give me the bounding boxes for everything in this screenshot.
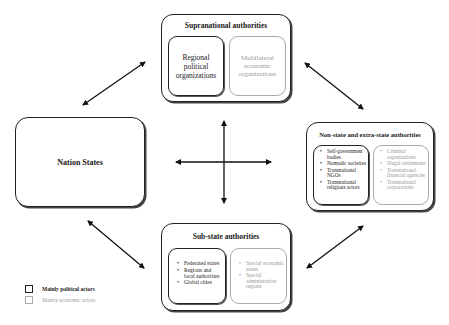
non-state-authorities-box: Non-state and extra-state authorities Se… — [306, 122, 434, 211]
list-item: Transnational financial agencies — [387, 168, 426, 179]
arrow-nation-to-substate — [88, 221, 144, 268]
nation-states-title: Nation States — [57, 158, 103, 167]
sub-state-economic-list: Special economic zones Special administr… — [237, 261, 284, 290]
arrow-substate-to-nonstate — [307, 226, 363, 268]
legend-political-label: Mainly political actors — [42, 286, 95, 292]
list-item: Transnational religious actors — [327, 180, 366, 191]
multilateral-economic-organizations-label: Multilateral economic organizations — [230, 54, 285, 78]
list-item: Criminal organizations — [387, 149, 426, 160]
non-state-political-box: Self-government bodies Nomadic societies… — [313, 145, 369, 205]
supranational-authorities-box: Supranational authorities Regional polit… — [161, 14, 291, 102]
list-item: Regions and local authorities — [184, 268, 223, 280]
list-item: Global cities — [184, 280, 223, 286]
sub-state-economic-box: Special economic zones Special administr… — [230, 248, 287, 304]
list-item: Transnational corporations — [387, 180, 426, 191]
non-state-economic-list: Criminal organizations Illegal settlemen… — [378, 149, 426, 191]
list-item: Transnational NGOs — [327, 168, 366, 179]
sub-state-title: Sub-state authorities — [162, 232, 290, 241]
list-item: Special administrative regions — [246, 273, 284, 290]
sub-state-authorities-box: Sub-state authorities Federated states R… — [161, 223, 291, 311]
regional-political-organizations-label: Regional political organizations — [169, 53, 223, 80]
sub-state-political-list: Federated states Regions and local autho… — [175, 261, 223, 286]
list-item: Self-government bodies — [327, 149, 366, 160]
list-item: Special economic zones — [246, 261, 284, 272]
non-state-political-list: Self-government bodies Nomadic societies… — [318, 149, 366, 191]
political-swatch-icon — [25, 285, 33, 293]
non-state-economic-box: Criminal organizations Illegal settlemen… — [373, 145, 429, 205]
legend-economic: Mainly economic actors — [25, 296, 95, 304]
economic-swatch-icon — [25, 296, 33, 304]
arrow-nation-to-supranational — [83, 62, 145, 105]
nation-states-box: Nation States — [15, 117, 145, 207]
list-item: Illegal settlements — [387, 161, 426, 167]
list-item: Nomadic societies — [327, 161, 366, 167]
list-item: Federated states — [184, 261, 223, 267]
regional-political-organizations-box: Regional political organizations — [168, 36, 224, 96]
supranational-title: Supranational authorities — [162, 21, 290, 30]
arrow-supranational-to-nonstate — [305, 63, 363, 109]
sub-state-political-box: Federated states Regions and local autho… — [168, 248, 226, 304]
legend-political: Mainly political actors — [25, 285, 95, 293]
legend-economic-label: Mainly economic actors — [42, 297, 95, 303]
multilateral-economic-organizations-box: Multilateral economic organizations — [229, 36, 286, 96]
non-state-title: Non-state and extra-state authorities — [307, 131, 433, 138]
